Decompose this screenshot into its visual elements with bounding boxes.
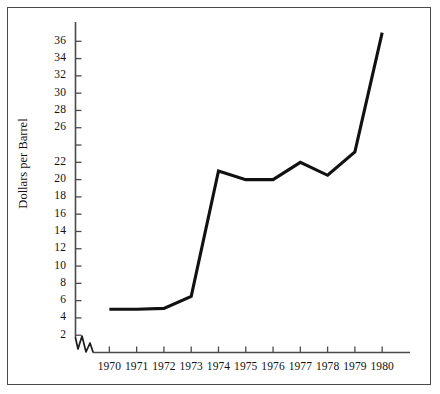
y-axis-tick-label: 8 — [40, 277, 66, 289]
y-axis-ticks — [76, 41, 82, 335]
y-axis-tick-label: 26 — [40, 121, 66, 133]
y-axis-tick-label: 14 — [40, 225, 66, 237]
plot-area: 246810121416182022262830323436 197019711… — [0, 0, 440, 394]
y-axis-tick-label: 4 — [40, 311, 66, 323]
y-axis-tick-label: 2 — [40, 329, 66, 341]
chart-svg — [0, 0, 440, 394]
axis-break-zigzag — [76, 336, 94, 352]
x-axis-tick-label: 1980 — [365, 361, 399, 373]
y-axis-tick-label: 6 — [40, 294, 66, 306]
chart-figure: 246810121416182022262830323436 197019711… — [0, 0, 440, 394]
y-axis-tick-label: 22 — [40, 156, 66, 168]
y-axis-tick-label: 12 — [40, 242, 66, 254]
y-axis-tick-label: 18 — [40, 190, 66, 202]
y-axis-tick-label: 28 — [40, 104, 66, 116]
y-axis-tick-label: 20 — [40, 173, 66, 185]
data-line-series-dollars-per-barrel — [109, 33, 382, 310]
y-axis-tick-label: 16 — [40, 208, 66, 220]
y-axis-tick-label: 36 — [40, 35, 66, 47]
y-axis-tick-label: 30 — [40, 87, 66, 99]
x-axis-ticks — [109, 347, 382, 353]
y-axis-tick-label: 32 — [40, 69, 66, 81]
y-axis-tick-label: 10 — [40, 260, 66, 272]
y-axis-title: Dollars per Barrel — [16, 104, 31, 224]
y-axis-tick-label: 34 — [40, 52, 66, 64]
